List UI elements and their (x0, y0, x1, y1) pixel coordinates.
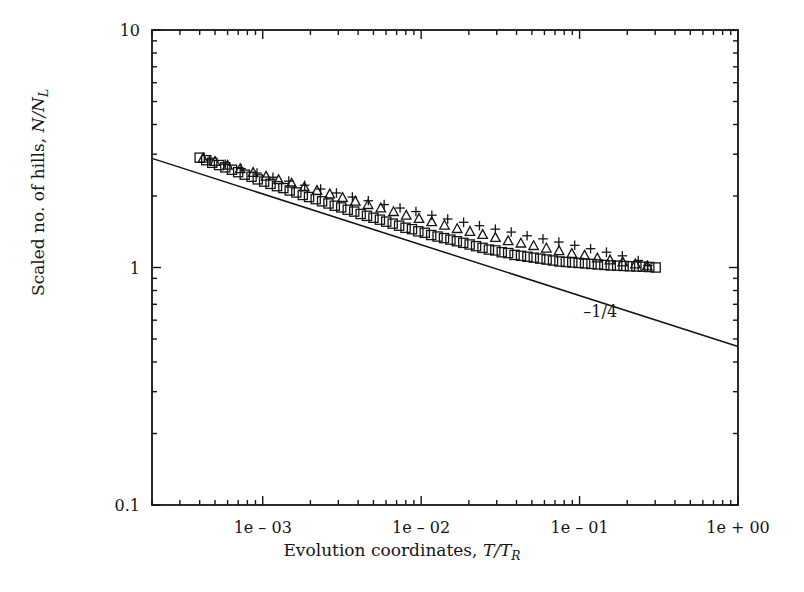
x-tick-label: 1e + 00 (706, 518, 770, 537)
marker-plus (459, 217, 469, 227)
x-axis-label: Evolution coordinates, T/TR (0, 540, 804, 563)
marker-plus (443, 214, 453, 224)
marker-triangle (491, 233, 501, 242)
series-triangles (198, 153, 652, 269)
marker-triangle (198, 153, 208, 162)
y-axis-label-text: Scaled no. of hills, (28, 132, 48, 296)
marker-triangle (516, 238, 526, 247)
marker-plus (205, 155, 215, 165)
axis-tick-labels: 1e – 031e – 021e – 011e + 001010.1 (115, 21, 770, 537)
marker-plus (284, 176, 294, 186)
marker-square (587, 259, 596, 268)
marker-square (395, 221, 404, 230)
marker-plus (554, 237, 564, 247)
marker-triangle (593, 253, 603, 262)
marker-square (651, 263, 660, 272)
marker-triangle (554, 246, 564, 255)
marker-triangle (401, 210, 411, 219)
marker-square (561, 257, 570, 266)
data-markers (195, 153, 660, 272)
marker-square (311, 195, 320, 204)
slope-annotation: –1/4 (583, 302, 617, 321)
reference-line (152, 158, 738, 346)
x-axis-label-text: Evolution coordinates, (283, 540, 482, 560)
y-tick-label: 0.1 (115, 496, 140, 515)
marker-square (568, 258, 577, 267)
marker-plus (379, 200, 389, 210)
x-tick-label: 1e – 03 (234, 518, 292, 537)
chart-svg: 1e – 031e – 021e – 011e + 001010.1 –1/4 (0, 0, 804, 592)
marker-triangle (465, 227, 475, 236)
figure-canvas: 1e – 031e – 021e – 011e + 001010.1 –1/4 … (0, 0, 804, 592)
marker-plus (491, 224, 501, 234)
y-axis-label-math: N/NL (28, 89, 48, 133)
marker-plus (618, 251, 628, 261)
y-axis-label: Scaled no. of hills, N/NL (28, 89, 51, 296)
marker-square (580, 259, 589, 268)
marker-triangle (580, 250, 590, 259)
y-tick-label: 1 (130, 259, 140, 278)
marker-plus (522, 231, 532, 241)
y-tick-label: 10 (120, 21, 140, 40)
marker-triangle (529, 241, 539, 250)
marker-triangle (452, 224, 462, 233)
series-squares (195, 153, 660, 272)
marker-square (324, 199, 333, 208)
slope-label: –1/4 (583, 302, 617, 321)
x-tick-label: 1e – 01 (550, 518, 608, 537)
marker-square (259, 177, 268, 186)
x-axis-label-math: T/TR (483, 540, 521, 560)
marker-plus (427, 210, 437, 220)
x-tick-label: 1e – 02 (392, 518, 450, 537)
marker-triangle (503, 236, 513, 245)
marker-plus (348, 192, 358, 202)
marker-plus (586, 244, 596, 254)
marker-square (298, 190, 307, 199)
marker-triangle (478, 230, 488, 239)
marker-triangle (338, 193, 348, 202)
marker-triangle (542, 243, 552, 252)
